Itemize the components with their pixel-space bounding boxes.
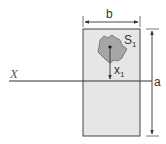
- section-diagram: X b a S1 x1: [0, 0, 166, 144]
- area-label-main: S: [124, 33, 132, 47]
- height-label: a: [154, 75, 161, 89]
- axis-label: X: [9, 66, 19, 81]
- area-label-subscript: 1: [132, 40, 137, 49]
- width-label: b: [106, 7, 113, 21]
- distance-label-subscript: 1: [120, 70, 125, 79]
